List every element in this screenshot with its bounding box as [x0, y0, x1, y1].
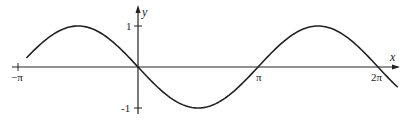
tick-label-y-neg-one: -1 [121, 102, 130, 114]
y-axis-label: y [141, 5, 148, 19]
tick-label-neg-pi: −π [11, 71, 23, 83]
tick-label-two-pi: 2π [371, 71, 383, 83]
x-axis-arrow-icon [392, 65, 400, 70]
tick-label-pi: π [256, 71, 262, 83]
x-axis-label: x [389, 50, 396, 64]
tick-label-y-one: 1 [126, 20, 132, 32]
sine-graph: y x −π π 2π 1 -1 [0, 0, 406, 120]
y-axis-arrow-icon [136, 5, 141, 13]
chart-canvas: y x −π π 2π 1 -1 [0, 0, 406, 120]
